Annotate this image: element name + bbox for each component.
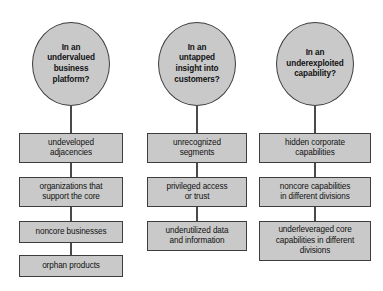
question-node-label: In an untapped insight into customers? bbox=[171, 43, 222, 85]
item-box-underutilized-data-and-information[interactable]: underutilized data and information bbox=[147, 221, 247, 251]
item-box-label: noncore businesses bbox=[33, 227, 108, 237]
diagram-column-undervalued-business-platform: In an undervalued business platform? und… bbox=[8, 0, 134, 291]
connector-circle-to-box-1 bbox=[314, 105, 315, 133]
item-box-hidden-corporate-capabilities[interactable]: hidden corporate capabilities bbox=[259, 133, 371, 163]
item-box-noncore-capabilities-in-different-divisions[interactable]: noncore capabilities in different divisi… bbox=[259, 177, 371, 207]
diagram-column-underexploited-capability: In an underexploited capability? hidden … bbox=[252, 0, 378, 291]
item-box-label: undeveloped adjacencies bbox=[46, 138, 96, 159]
item-box-orphan-products[interactable]: orphan products bbox=[19, 255, 123, 277]
item-box-noncore-businesses[interactable]: noncore businesses bbox=[19, 221, 123, 243]
item-box-undeveloped-adjacencies[interactable]: undeveloped adjacencies bbox=[19, 133, 123, 163]
item-box-label: underleveraged core capabilities in diff… bbox=[274, 225, 356, 256]
item-box-label: orphan products bbox=[40, 261, 102, 271]
item-box-organizations-that-support-the-core[interactable]: organizations that support the core bbox=[19, 177, 123, 207]
item-box-underleveraged-core-capabilities-in-different-divisions[interactable]: underleveraged core capabilities in diff… bbox=[259, 221, 371, 261]
connector-circle-to-box-1 bbox=[70, 105, 71, 133]
question-node-untapped-insight-into-customers[interactable]: In an untapped insight into customers? bbox=[158, 22, 236, 106]
connector-circle-to-box-1 bbox=[196, 105, 197, 133]
diagram-column-untapped-insight-into-customers: In an untapped insight into customers? u… bbox=[134, 0, 260, 291]
question-node-label: In an undervalued business platform? bbox=[44, 43, 98, 85]
connector-box-1-to-box-2 bbox=[196, 163, 197, 177]
item-box-unrecognized-segments[interactable]: unrecognized segments bbox=[147, 133, 247, 163]
connector-box-2-to-box-3 bbox=[196, 207, 197, 221]
connector-box-3-to-box-4 bbox=[70, 243, 71, 255]
item-box-privileged-access-or-trust[interactable]: privileged access or trust bbox=[147, 177, 247, 207]
item-box-label: unrecognized segments bbox=[171, 138, 223, 159]
item-box-label: underutilized data and information bbox=[164, 226, 231, 247]
item-box-label: hidden corporate capabilities bbox=[283, 138, 347, 159]
item-box-label: noncore capabilities in different divisi… bbox=[278, 182, 352, 203]
connector-box-2-to-box-3 bbox=[314, 207, 315, 221]
question-node-underexploited-capability[interactable]: In an underexploited capability? bbox=[276, 22, 354, 106]
question-node-label: In an underexploited capability? bbox=[283, 48, 346, 80]
connector-box-1-to-box-2 bbox=[314, 163, 315, 177]
item-box-label: organizations that support the core bbox=[38, 182, 105, 203]
question-node-undervalued-business-platform[interactable]: In an undervalued business platform? bbox=[32, 22, 110, 106]
item-box-label: privileged access or trust bbox=[164, 182, 229, 203]
connector-box-2-to-box-3 bbox=[70, 207, 71, 221]
diagram-canvas: In an undervalued business platform? und… bbox=[0, 0, 383, 291]
connector-box-1-to-box-2 bbox=[70, 163, 71, 177]
